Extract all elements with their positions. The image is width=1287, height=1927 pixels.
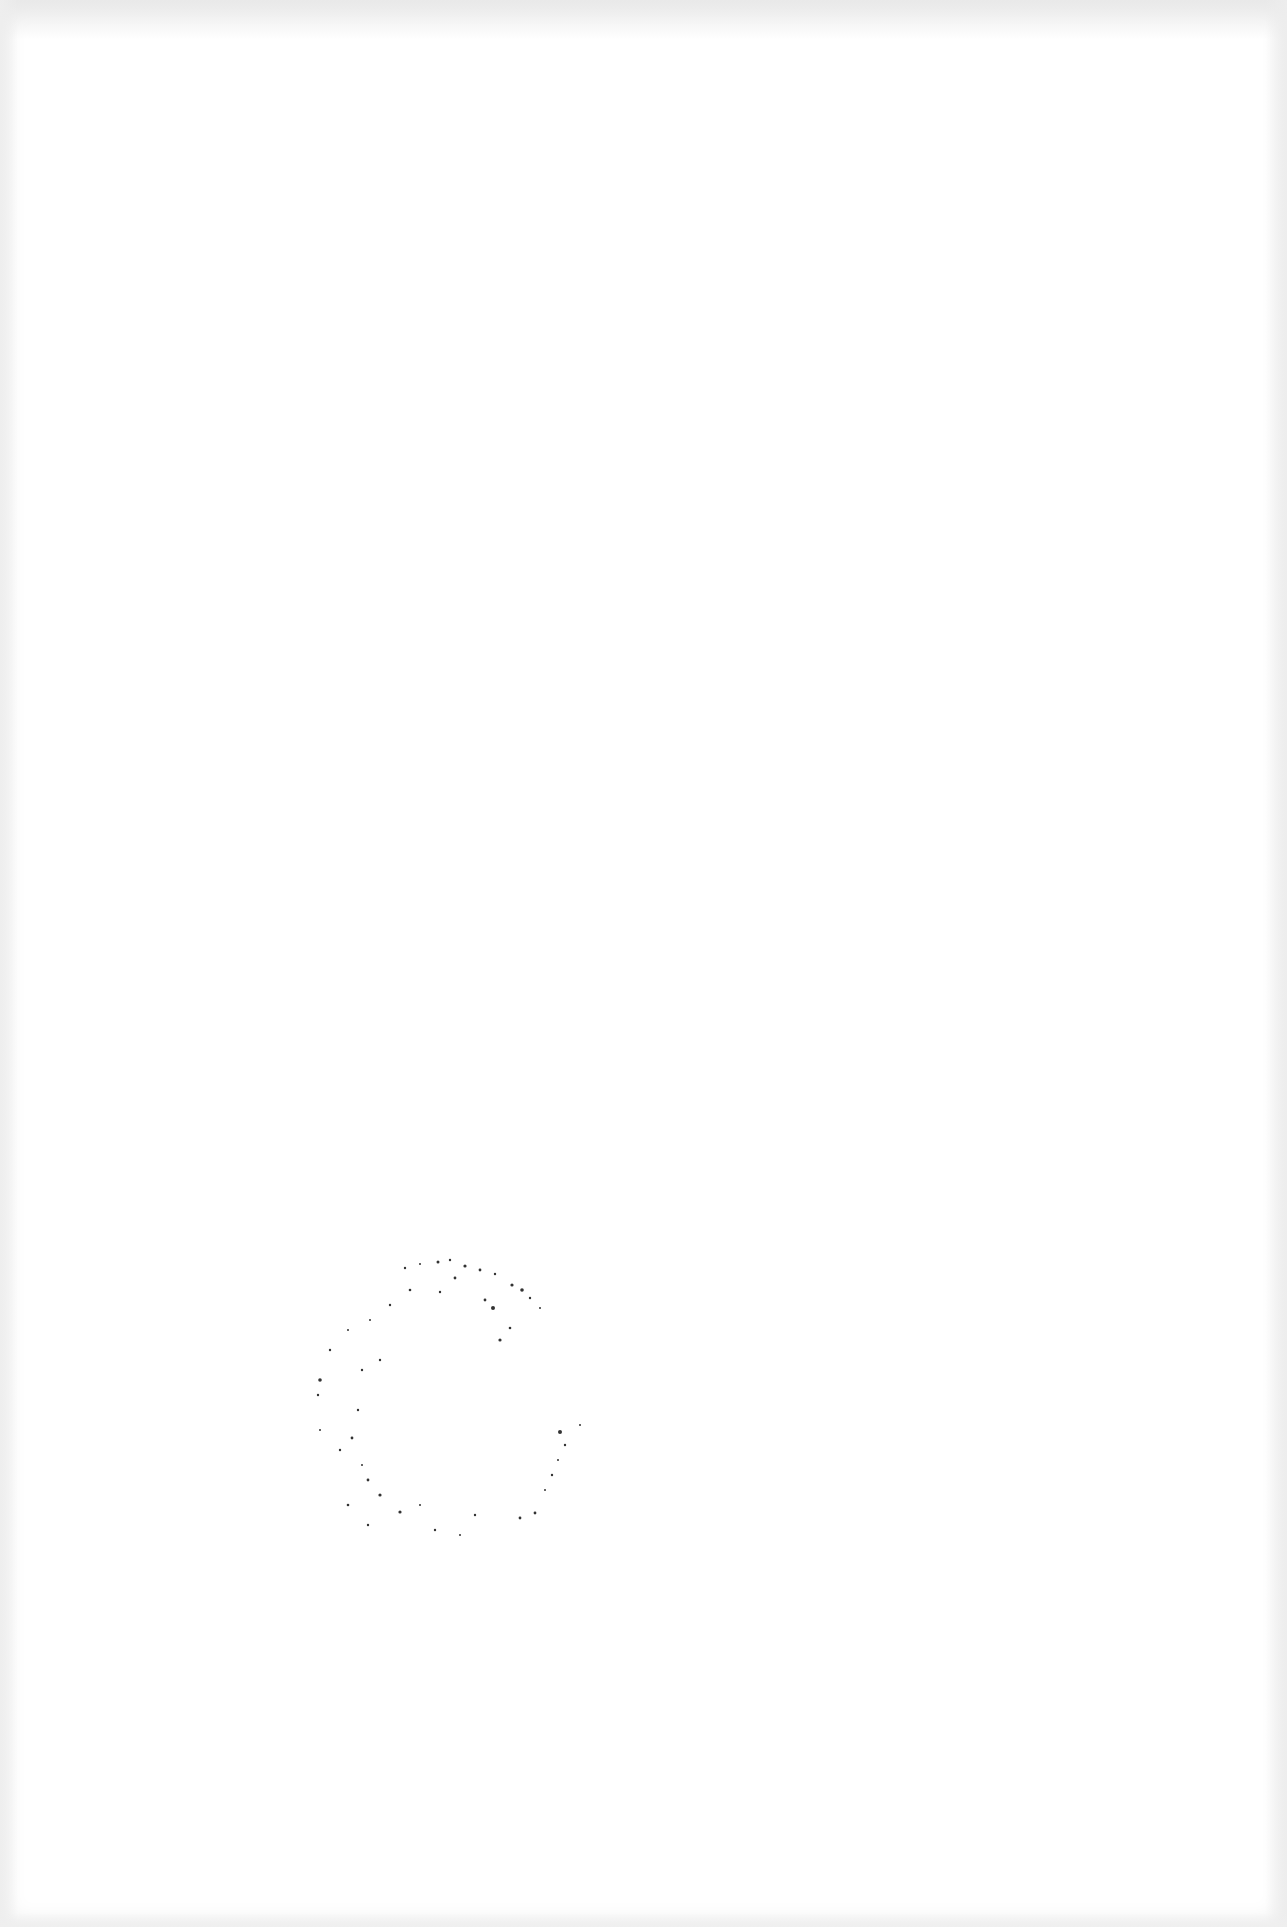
scan-shadow-left [0, 0, 18, 1927]
scan-shadow-top [0, 0, 1287, 40]
scanned-page [0, 0, 1287, 1927]
scan-shadow-right [1265, 0, 1287, 1927]
stamp-icon [290, 1250, 590, 1550]
scan-shadow-bottom [0, 1913, 1287, 1927]
faded-circular-stamp [290, 1250, 590, 1550]
